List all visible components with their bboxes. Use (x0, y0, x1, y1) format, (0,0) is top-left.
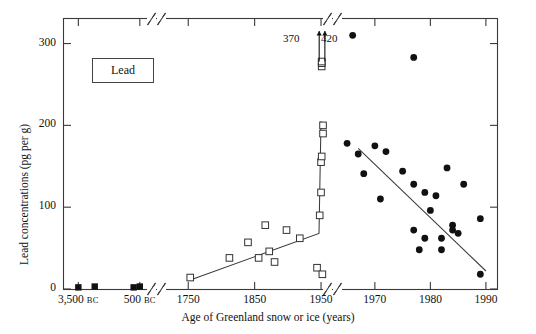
y-tick-label: 0 (0, 281, 56, 293)
legend-label: Lead (111, 63, 135, 78)
x-tick-label: 1990 (446, 293, 526, 305)
axis-break-marks (147, 13, 342, 295)
y-tick-label: 100 (0, 199, 56, 211)
annotation-420: 420 (321, 32, 338, 44)
figure-container: Lead Lead concentrations (pg per g) Age … (0, 0, 536, 334)
chart-canvas (0, 0, 536, 334)
x-axis-title: Age of Greenland snow or ice (years) (0, 311, 536, 323)
legend-lead-box: Lead (92, 58, 154, 83)
y-tick-label: 300 (0, 36, 56, 48)
annotation-370: 370 (283, 32, 300, 44)
y-tick-label: 200 (0, 117, 56, 129)
y-axis-title: Lead concentrations (pg per g) (18, 124, 30, 265)
